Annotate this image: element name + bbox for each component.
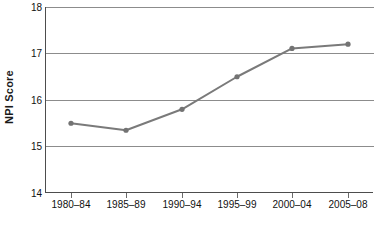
y-tick-label-17: 17 <box>16 49 42 59</box>
y-tick-label-18: 18 <box>16 3 42 13</box>
gridline-16 <box>46 100 374 101</box>
x-tick-5 <box>348 193 349 198</box>
npi-score-line-chart: NPI Score 18 17 16 15 14 1980–84 1985–89… <box>0 0 382 232</box>
x-tick-4 <box>292 193 293 198</box>
x-tick-label-5: 2005–08 <box>313 200 382 210</box>
plot-area <box>45 7 373 193</box>
x-tick-3 <box>237 193 238 198</box>
y-tick-label-14: 14 <box>16 189 42 199</box>
y-tick-label-16: 16 <box>16 96 42 106</box>
x-tick-2 <box>182 193 183 198</box>
x-tick-1 <box>126 193 127 198</box>
x-tick-0 <box>71 193 72 198</box>
gridline-17 <box>46 53 374 54</box>
gridline-18 <box>46 7 374 8</box>
gridline-15 <box>46 146 374 147</box>
y-axis-title-label: NPI Score <box>3 70 15 124</box>
y-tick-label-15: 15 <box>16 142 42 152</box>
